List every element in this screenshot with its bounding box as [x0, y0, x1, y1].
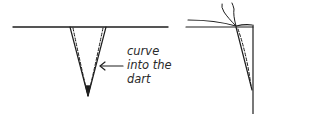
- dart-apex-knot: [86, 86, 90, 96]
- dart-leg-right: [88, 27, 106, 96]
- dart-stitch-left-dashed: [73, 28, 87, 92]
- folded-dart-leg: [236, 27, 252, 90]
- folded-edge-curve: [188, 20, 252, 26]
- dart-stitch-right-dashed: [89, 28, 103, 92]
- dart-folded-view: [186, 3, 253, 114]
- left-arrow-icon: [100, 62, 123, 70]
- annotation-line-2: into the: [127, 59, 172, 72]
- annotation-line-1: curve: [127, 45, 159, 58]
- dart-leg-left: [70, 27, 88, 96]
- annotation-line-3: dart: [127, 73, 151, 86]
